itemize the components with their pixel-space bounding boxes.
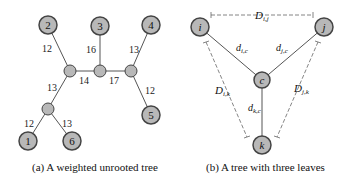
- weight-e17: 17: [109, 75, 119, 86]
- label-d-kc: dk,c: [248, 102, 262, 115]
- label-D-ik: Di,k: [214, 84, 231, 98]
- leaf-label-2: 2: [45, 19, 51, 31]
- caption-a: (a) A weighted unrooted tree: [32, 161, 158, 173]
- diagram-canvas: 2 3 4 5 1 6 12 16 13 12 14 17 13 12 13: [0, 0, 347, 184]
- leaf-label-3: 3: [97, 20, 103, 32]
- caption-b: (b) A tree with three leaves: [206, 161, 325, 173]
- weight-e13: 13: [47, 82, 57, 93]
- leaf-label-4: 4: [148, 19, 154, 31]
- weight-e3: 16: [86, 44, 96, 55]
- label-d-ic: di,c: [236, 42, 249, 55]
- leaf-label-5: 5: [148, 109, 154, 121]
- weight-e6: 13: [62, 118, 72, 129]
- weight-e1: 12: [24, 118, 34, 129]
- weight-e5: 12: [145, 85, 155, 96]
- label-D-jk: Dj,k: [293, 82, 310, 96]
- label-D-ij: Di,j: [254, 9, 269, 23]
- weight-e4: 13: [129, 44, 139, 55]
- leaf-label-6: 6: [69, 135, 75, 147]
- tree-a-leaves: [19, 16, 160, 150]
- label-d-jc: dj,c: [276, 42, 289, 55]
- weight-e14: 14: [79, 75, 89, 86]
- node-label-c: c: [260, 74, 265, 86]
- leaf-label-1: 1: [25, 135, 31, 147]
- node-label-i: i: [198, 21, 201, 33]
- weight-e2: 12: [42, 43, 52, 54]
